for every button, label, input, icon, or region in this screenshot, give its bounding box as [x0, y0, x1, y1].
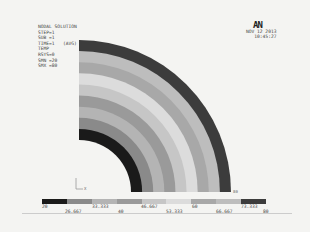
legend-label: 73.333	[241, 204, 258, 209]
legend-label: 60	[192, 204, 198, 209]
legend-label: 46.667	[141, 204, 158, 209]
divider	[22, 213, 292, 214]
contour-bands	[79, 40, 231, 192]
contour-plot: X 80	[0, 0, 310, 232]
legend-swatch	[67, 199, 92, 204]
node-label: 80	[233, 189, 238, 194]
legend-swatch	[166, 199, 191, 204]
legend-swatch	[216, 199, 241, 204]
legend-label: 20	[42, 204, 48, 209]
legend-label: 33.333	[92, 204, 109, 209]
legend-swatch	[117, 199, 142, 204]
